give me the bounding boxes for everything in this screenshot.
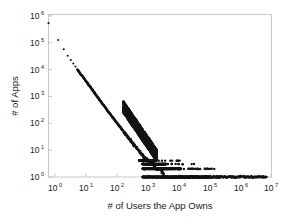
data-point: [142, 131, 144, 133]
svg-text:10: 10: [30, 172, 40, 182]
data-point: [190, 163, 192, 165]
data-point: [135, 126, 137, 128]
data-point: [216, 176, 218, 178]
data-point: [152, 147, 154, 149]
data-point: [265, 176, 267, 178]
svg-text:5: 5: [214, 182, 217, 188]
data-point: [213, 168, 215, 170]
data-point: [122, 107, 124, 109]
data-point: [181, 163, 183, 165]
data-point: [133, 124, 135, 126]
svg-text:6: 6: [245, 182, 248, 188]
svg-text:10: 10: [48, 183, 58, 193]
x-axis-label: # of Users the App Owns: [107, 200, 212, 211]
data-point: [145, 138, 147, 140]
data-point: [142, 139, 144, 141]
svg-text:4: 4: [41, 64, 44, 70]
svg-text:1: 1: [41, 144, 44, 150]
data-point: [132, 114, 134, 116]
svg-text:7: 7: [275, 182, 278, 188]
figure-container: 10 0 10 1 10 2 10 3 10 4 10 5: [0, 0, 291, 221]
svg-text:10: 10: [264, 183, 274, 193]
data-point: [125, 112, 127, 114]
data-point: [136, 122, 138, 124]
data-point: [131, 117, 133, 119]
data-point: [147, 145, 149, 147]
data-point: [183, 168, 185, 170]
data-point: [67, 55, 69, 57]
svg-text:3: 3: [41, 90, 44, 96]
data-point: [63, 48, 65, 50]
y-axis-label: # of Apps: [9, 76, 20, 116]
data-point: [164, 159, 166, 161]
data-point: [232, 176, 234, 178]
svg-text:2: 2: [41, 117, 44, 123]
log-log-scatter-plot: 10 0 10 1 10 2 10 3 10 4 10 5: [0, 0, 291, 221]
data-point: [141, 137, 143, 139]
svg-text:10: 10: [30, 65, 40, 75]
svg-text:6: 6: [41, 10, 44, 16]
svg-text:10: 10: [30, 145, 40, 155]
data-point: [210, 176, 212, 178]
data-point: [167, 163, 169, 165]
svg-text:5: 5: [41, 37, 44, 43]
data-point: [174, 163, 176, 165]
svg-text:1: 1: [90, 182, 93, 188]
svg-text:10: 10: [141, 183, 151, 193]
data-point: [137, 128, 139, 130]
data-point: [152, 144, 154, 146]
data-point: [127, 116, 129, 118]
data-point: [148, 141, 150, 143]
data-point: [193, 163, 195, 165]
svg-text:3: 3: [152, 182, 155, 188]
data-point: [128, 110, 130, 112]
data-point: [70, 59, 72, 61]
svg-text:10: 10: [172, 183, 182, 193]
data-point: [238, 176, 240, 178]
data-point: [130, 123, 132, 125]
data-point: [72, 62, 74, 64]
data-point: [148, 148, 150, 150]
svg-text:10: 10: [110, 183, 120, 193]
data-point: [178, 163, 180, 165]
svg-text:4: 4: [183, 182, 186, 188]
data-point: [178, 159, 180, 161]
data-point: [147, 137, 149, 139]
data-point: [211, 167, 213, 169]
data-point: [220, 176, 222, 178]
data-point: [171, 163, 173, 165]
data-point: [57, 39, 59, 41]
svg-text:10: 10: [30, 38, 40, 48]
svg-text:10: 10: [30, 11, 40, 21]
data-point: [144, 143, 146, 145]
data-point: [47, 22, 49, 24]
svg-text:10: 10: [203, 183, 213, 193]
data-point: [171, 159, 173, 161]
data-point: [74, 65, 76, 67]
svg-text:0: 0: [41, 171, 44, 177]
svg-text:10: 10: [30, 91, 40, 101]
svg-text:10: 10: [234, 183, 244, 193]
svg-text:2: 2: [121, 182, 124, 188]
data-point: [156, 149, 158, 151]
data-point: [227, 176, 229, 178]
svg-text:10: 10: [79, 183, 89, 193]
svg-text:10: 10: [30, 118, 40, 128]
data-point: [132, 119, 134, 121]
data-point: [199, 168, 201, 170]
data-point: [161, 160, 163, 162]
data-point: [207, 168, 209, 170]
data-point: [218, 176, 220, 178]
data-point: [250, 176, 252, 178]
data-point: [137, 132, 139, 134]
data-point: [125, 105, 127, 107]
svg-text:0: 0: [59, 182, 62, 188]
data-point: [123, 111, 125, 113]
data-point: [180, 168, 182, 170]
data-point: [150, 151, 152, 153]
